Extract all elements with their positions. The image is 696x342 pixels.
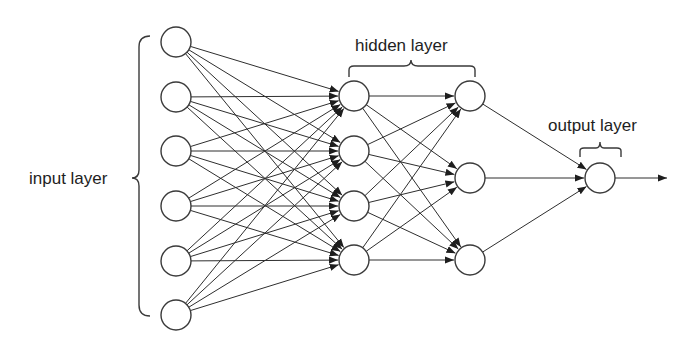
connection-input-2-to-hidden-1-1 — [191, 96, 338, 97]
connection-hidden-1-4-to-hidden-2-2 — [366, 187, 457, 251]
input-node-2 — [161, 82, 191, 112]
hidden-layer-label: hidden layer — [355, 36, 448, 55]
hidden-1-node-2 — [339, 136, 369, 166]
connection-hidden-1-1-to-hidden-2-3 — [363, 108, 461, 247]
hidden-2-node-3 — [455, 245, 485, 275]
output-layer-label: output layer — [548, 116, 637, 135]
hidden-2-node-2 — [455, 163, 485, 193]
connection-hidden-2-1-to-output-1 — [483, 104, 587, 170]
output-layer-brace — [580, 142, 621, 157]
hidden-layer-brace — [349, 60, 475, 77]
input-node-1 — [161, 27, 191, 57]
connection-input-6-to-hidden-1-4 — [190, 265, 338, 311]
hidden-2-node-1 — [455, 81, 485, 111]
connection-hidden-1-3-to-hidden-2-2 — [369, 182, 455, 203]
connection-input-1-to-hidden-1-1 — [190, 46, 338, 91]
input-node-5 — [161, 246, 191, 276]
hidden-1-node-4 — [339, 245, 369, 275]
connection-hidden-1-3-to-hidden-2-3 — [368, 212, 456, 253]
hidden-1-node-3 — [339, 191, 369, 221]
hidden-1-node-1 — [339, 81, 369, 111]
connection-input-6-to-hidden-1-2 — [187, 162, 342, 305]
connection-hidden-1-1-to-hidden-2-2 — [366, 105, 457, 169]
connection-hidden-1-2-to-hidden-2-3 — [365, 161, 458, 249]
input-layer-label: input layer — [29, 169, 108, 188]
input-node-4 — [161, 191, 191, 221]
neural-network-diagram: input layer hidden layer output layer — [0, 0, 696, 342]
connection-hidden-1-3-to-hidden-2-1 — [365, 107, 459, 196]
connection-hidden-2-3-to-output-1 — [483, 187, 587, 253]
output-node-1 — [585, 163, 615, 193]
connection-hidden-1-2-to-hidden-2-1 — [368, 103, 456, 145]
input-layer-brace — [132, 36, 150, 316]
input-node-6 — [161, 300, 191, 330]
input-node-3 — [161, 136, 191, 166]
connection-hidden-1-4-to-hidden-2-1 — [363, 109, 461, 248]
